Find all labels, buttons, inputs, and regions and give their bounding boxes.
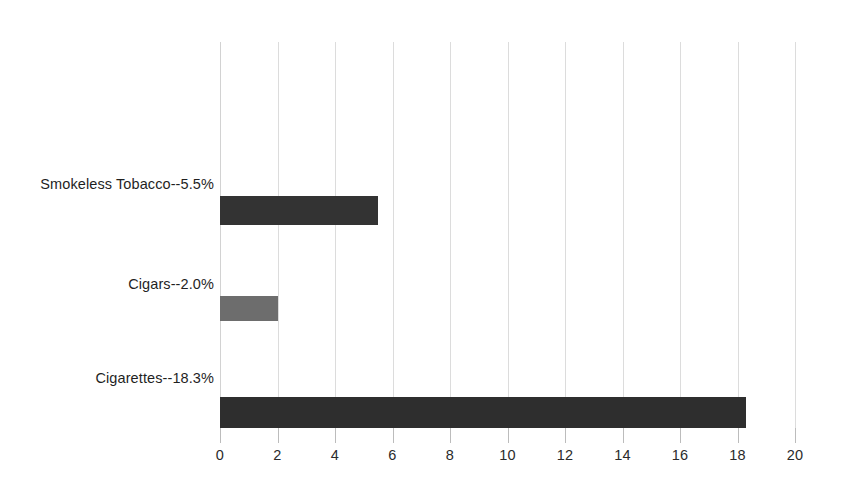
gridline-18 (738, 42, 739, 428)
xtick-label-4: 4 (331, 447, 339, 463)
tickmark-8 (450, 428, 451, 443)
xtick-label-6: 6 (388, 447, 396, 463)
gridline-8 (450, 42, 451, 428)
tickmark-14 (623, 428, 624, 443)
tickmark-16 (680, 428, 681, 443)
xtick-label-20: 20 (787, 447, 804, 463)
plot-area (220, 42, 795, 428)
gridline-6 (393, 42, 394, 428)
gridline-2 (278, 42, 279, 428)
gridline-10 (508, 42, 509, 428)
xtick-label-2: 2 (273, 447, 281, 463)
tickmark-18 (738, 428, 739, 443)
xtick-label-0: 0 (216, 447, 224, 463)
gridline-0 (220, 42, 221, 428)
xtick-label-14: 14 (614, 447, 631, 463)
tickmark-6 (393, 428, 394, 443)
tickmark-0 (220, 428, 221, 443)
xtick-label-10: 10 (499, 447, 516, 463)
y-axis-labels: Smokeless Tobacco--5.5% Cigars--2.0% Cig… (0, 0, 214, 495)
bar-cigars[interactable] (220, 296, 278, 321)
tickmark-4 (335, 428, 336, 443)
category-label-cigarettes: Cigarettes--18.3% (95, 370, 214, 386)
gridline-14 (623, 42, 624, 428)
gridline-20 (795, 42, 796, 428)
tickmark-20 (795, 428, 796, 443)
xtick-label-18: 18 (729, 447, 746, 463)
xtick-label-8: 8 (446, 447, 454, 463)
category-label-cigars: Cigars--2.0% (128, 276, 214, 292)
tickmark-2 (278, 428, 279, 443)
tickmark-12 (565, 428, 566, 443)
xtick-label-12: 12 (557, 447, 574, 463)
bar-chart-figure: 0 2 4 6 8 10 12 14 16 18 20 Smokeless To… (0, 0, 841, 495)
gridline-16 (680, 42, 681, 428)
bar-smokeless-tobacco[interactable] (220, 196, 378, 225)
category-label-smokeless-tobacco: Smokeless Tobacco--5.5% (40, 176, 214, 192)
tickmark-10 (508, 428, 509, 443)
gridline-4 (335, 42, 336, 428)
gridline-12 (565, 42, 566, 428)
xtick-label-16: 16 (672, 447, 689, 463)
bar-cigarettes[interactable] (220, 397, 746, 428)
